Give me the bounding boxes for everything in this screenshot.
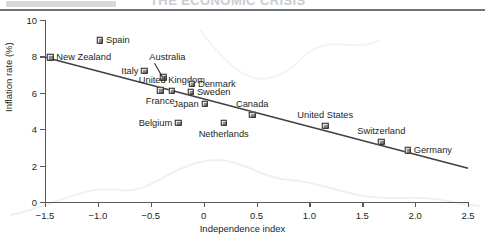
data-point-marker xyxy=(169,88,176,95)
x-tick-label: 0.5 xyxy=(250,210,263,221)
x-tick xyxy=(151,202,152,207)
y-tick xyxy=(40,20,45,21)
data-point-marker xyxy=(189,80,196,87)
y-tick xyxy=(40,129,45,130)
data-point-marker xyxy=(201,100,208,107)
data-point-marker xyxy=(322,122,329,129)
x-tick xyxy=(98,202,99,207)
trend-line xyxy=(45,20,468,202)
y-tick xyxy=(40,56,45,57)
data-point-label: Sweden xyxy=(197,87,231,97)
y-tick xyxy=(40,93,45,94)
x-tick xyxy=(468,202,469,207)
x-tick-label: −1.5 xyxy=(36,210,55,221)
x-tick-label: 2.0 xyxy=(409,210,422,221)
y-tick-label: 4 xyxy=(32,124,37,135)
data-point-label: Japan xyxy=(173,99,198,109)
x-tick xyxy=(415,202,416,207)
x-tick-label: −1.0 xyxy=(88,210,107,221)
x-tick xyxy=(204,202,205,207)
y-tick-label: 8 xyxy=(32,51,37,62)
x-tick xyxy=(309,202,310,207)
data-point-label: United States xyxy=(297,110,353,120)
data-point-marker xyxy=(47,54,54,61)
y-axis-label: Inflation rate (%) xyxy=(3,42,14,112)
x-tick-label: 0 xyxy=(201,210,206,221)
x-tick xyxy=(362,202,363,207)
y-tick-label: 2 xyxy=(32,160,37,171)
data-point-marker xyxy=(188,89,195,96)
x-tick xyxy=(257,202,258,207)
y-tick-label: 6 xyxy=(32,87,37,98)
data-point-marker xyxy=(97,37,104,44)
x-tick-label: −0.5 xyxy=(141,210,160,221)
data-point-marker xyxy=(141,68,148,75)
data-point-marker xyxy=(220,120,227,127)
y-tick-label: 0 xyxy=(32,197,37,208)
data-point-marker xyxy=(404,147,411,154)
plot-area: 0246810 −1.5−1.0−0.500.51.01.52.02.5 New… xyxy=(45,20,468,202)
x-axis-label: Independence index xyxy=(0,223,485,234)
data-point-label: Belgium xyxy=(139,118,173,128)
x-tick-label: 1.0 xyxy=(303,210,316,221)
header-color-swatch xyxy=(6,1,116,7)
header-rule xyxy=(0,9,485,11)
data-point-label: Australia xyxy=(149,52,185,62)
figure: THE ECONOMIC CRISIS 0246810 −1.5−1.0−0.5… xyxy=(0,0,485,247)
data-point-label: Germany xyxy=(414,145,452,155)
x-tick-label: 2.5 xyxy=(461,210,474,221)
data-point-marker xyxy=(378,139,385,146)
data-point-label: Spain xyxy=(106,35,130,45)
x-tick-label: 1.5 xyxy=(356,210,369,221)
data-point-marker xyxy=(175,120,182,127)
data-point-label: Canada xyxy=(236,99,269,109)
data-point-marker xyxy=(157,87,164,94)
x-tick xyxy=(45,202,46,207)
data-point-label: Italy xyxy=(121,66,138,76)
page-header-band: THE ECONOMIC CRISIS xyxy=(0,0,485,11)
data-point-label: France xyxy=(146,96,175,106)
header-title-cropped: THE ECONOMIC CRISIS xyxy=(150,0,306,8)
y-tick xyxy=(40,166,45,167)
data-point-label: Switzerland xyxy=(357,126,405,136)
data-point-label: New Zealand xyxy=(56,52,111,62)
data-point-marker xyxy=(249,111,256,118)
data-point-label: Netherlands xyxy=(199,129,249,139)
y-tick-label: 10 xyxy=(26,15,37,26)
